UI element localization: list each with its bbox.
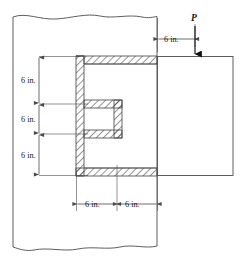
dim-vertical-1: 6 in. (21, 76, 36, 85)
engineering-figure: 6 in. 6 in. 6 in. 6 in. 6 in. 6 in. P (0, 0, 242, 263)
load-offset-dimension: 6 in. (158, 18, 196, 52)
dim-horizontal-2: 6 in. (125, 200, 140, 209)
dim-vertical-2: 6 in. (21, 115, 36, 124)
dim-horizontal-1: 6 in. (85, 200, 100, 209)
load-label: P (191, 13, 197, 23)
load-arrow-P: P (191, 13, 197, 54)
dim-vertical-3: 6 in. (21, 151, 36, 160)
figure-canvas: 6 in. 6 in. 6 in. 6 in. 6 in. 6 in. P (0, 0, 242, 263)
attached-plate (158, 57, 234, 176)
dim-load-offset: 6 in. (164, 35, 179, 44)
